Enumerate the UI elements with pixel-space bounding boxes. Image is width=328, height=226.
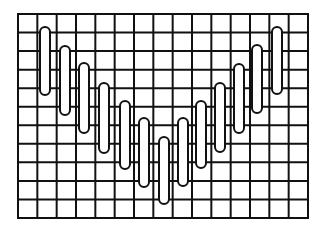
bar-6 (139, 118, 149, 187)
bar-1 (40, 27, 50, 95)
bar-3 (79, 63, 89, 133)
bar-12 (252, 45, 262, 113)
bar-9 (196, 101, 206, 168)
bar-13 (272, 27, 282, 94)
bar-10 (215, 83, 225, 152)
bar-11 (234, 64, 244, 133)
v-bar-grid-diagram (0, 0, 328, 226)
bar-5 (120, 101, 130, 169)
bar-2 (60, 46, 70, 115)
bar-7 (159, 137, 169, 204)
bar-4 (99, 83, 109, 153)
bar-8 (178, 118, 188, 186)
